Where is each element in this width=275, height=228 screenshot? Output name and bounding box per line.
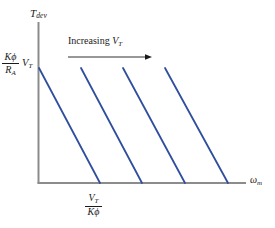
y-intercept-multiplier: VT (22, 58, 32, 70)
y-intercept-fraction: Kϕ RA (2, 52, 19, 77)
x-axis-label-base: ω (250, 174, 257, 185)
y-axis-label: Tdev (30, 8, 47, 20)
y-axis-label-subscript: dev (36, 11, 47, 20)
y-intercept-label: Kϕ RA VT (2, 52, 32, 77)
increasing-annotation-label: Increasing VT (68, 36, 122, 48)
y-intercept-denominator: RA (3, 64, 17, 77)
y-intercept-numerator: Kϕ (3, 52, 19, 63)
characteristic-lines (39, 68, 228, 183)
x-axis-label-subscript: m (257, 179, 262, 187)
x-intercept-label: VT Kϕ (85, 188, 102, 218)
increasing-annotation-variable-subscript: T (118, 40, 122, 48)
increasing-arrow (68, 54, 152, 60)
x-intercept-denominator: Kϕ (86, 207, 102, 218)
x-intercept-fraction: VT Kϕ (85, 193, 102, 218)
increasing-annotation-text: Increasing (68, 35, 112, 46)
characteristic-line-4 (165, 68, 228, 183)
x-intercept-numerator: VT (86, 193, 100, 206)
plot-canvas (0, 0, 275, 228)
torque-speed-characteristic-figure: Tdev ωm Kϕ RA VT Increasing VT VT Kϕ (0, 0, 275, 228)
x-axis-label: ωm (250, 175, 262, 187)
